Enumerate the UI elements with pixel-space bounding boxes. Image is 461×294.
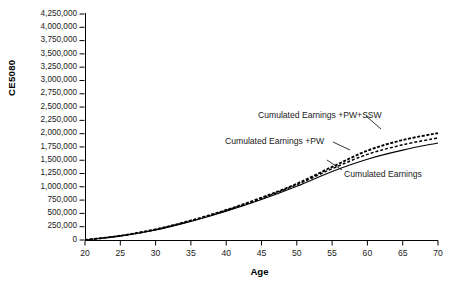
x-axis-title: Age: [0, 266, 461, 277]
series-line: [85, 143, 438, 240]
chart-container: CE5080 4,250,0004,000,0003,750,0003,500,…: [0, 0, 461, 294]
annotation-leader-line: [366, 116, 381, 129]
plot-area: [0, 0, 461, 294]
series-line: [85, 138, 438, 240]
axis-lines: [85, 13, 438, 241]
y-axis-ticks: [80, 14, 85, 240]
annotation-leader-line: [333, 142, 350, 150]
annotation-leader-lines: [327, 116, 381, 170]
series-lines: [85, 133, 438, 240]
series-line: [85, 133, 438, 240]
x-axis-ticks: [85, 241, 438, 246]
